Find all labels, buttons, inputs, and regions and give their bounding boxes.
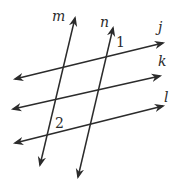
- transversal-n: [78, 28, 113, 177]
- parallel-line-j: [15, 43, 163, 79]
- line-j: j: [15, 19, 163, 79]
- parallel-lines-diagram: m n j k l 1 2: [0, 0, 178, 184]
- angle-1-label: 1: [116, 34, 125, 50]
- line-m: m: [40, 8, 75, 165]
- label-m: m: [52, 8, 65, 24]
- label-k: k: [158, 53, 166, 69]
- parallel-line-k: [13, 76, 160, 109]
- angle-2-label: 2: [55, 115, 64, 131]
- line-n: n: [78, 14, 113, 177]
- parallel-line-l: [15, 106, 163, 143]
- label-j: j: [155, 19, 163, 35]
- label-l: l: [164, 89, 168, 105]
- transversal-m: [40, 18, 75, 165]
- label-n: n: [100, 14, 109, 30]
